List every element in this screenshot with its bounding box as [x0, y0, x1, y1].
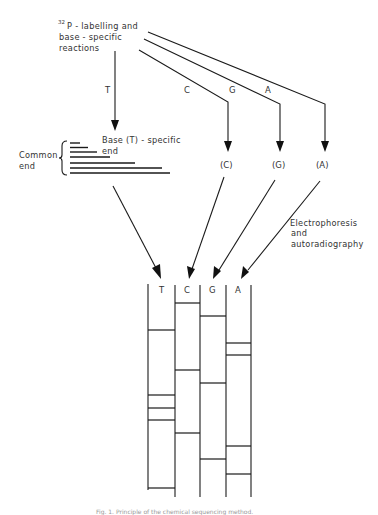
lane-a-bands [226, 343, 251, 474]
common-end-label: Common end [19, 141, 67, 175]
lane-label-t: T [158, 285, 165, 295]
electrophoresis-label: Electrophoresis and autoradiography [290, 218, 364, 249]
branch-label-c: C [184, 85, 190, 95]
svg-text:Electrophoresis: Electrophoresis [290, 218, 357, 228]
lane-label-a: A [235, 285, 241, 295]
figure-caption: Fig. 1. Principle of the chemical sequen… [96, 508, 253, 515]
svg-text:and: and [291, 228, 307, 238]
lane-c-bands [175, 303, 200, 433]
lane-t-bands [148, 330, 175, 488]
lane-label-c: C [184, 285, 190, 295]
dna-fragments [70, 143, 170, 173]
a-reaction-arrow: A [148, 32, 329, 152]
isotope-superscript: 32 [58, 19, 65, 25]
arrowhead-icon [321, 141, 329, 152]
svg-text:end: end [102, 146, 118, 156]
branch-label-t: T [104, 85, 111, 95]
base-specific-end-label: Base (T) - specific end [102, 135, 181, 156]
svg-text:end: end [19, 161, 35, 171]
arrowhead-icon [241, 266, 249, 279]
electrophoresis-arrows [113, 177, 320, 279]
label-line3: reactions [59, 43, 99, 53]
label-line2: base - specific [59, 32, 122, 42]
sequencing-diagram: 32 P - labelling and base - specific rea… [0, 0, 378, 515]
product-label-g: (G) [272, 160, 285, 170]
arrowhead-icon [224, 141, 232, 152]
sequencing-gel: T C G A [148, 284, 251, 497]
arrowhead-icon [152, 264, 161, 279]
svg-text:Common: Common [19, 150, 58, 160]
label-line1: P - labelling and [67, 21, 138, 31]
product-label-c: (C) [220, 160, 233, 170]
branch-label-a: A [265, 85, 271, 95]
arrowhead-icon [276, 141, 284, 152]
brace-icon [59, 141, 67, 175]
arrowhead-icon [111, 120, 119, 131]
lane-label-g: G [209, 285, 216, 295]
product-label-a: (A) [316, 160, 328, 170]
arrowhead-icon [187, 266, 195, 279]
lane-g-bands [200, 316, 226, 459]
labelling-reactions-label: 32 P - labelling and base - specific rea… [58, 19, 138, 53]
t-reaction-arrow: T [104, 51, 119, 131]
svg-text:autoradiography: autoradiography [291, 239, 364, 249]
branch-label-g: G [229, 85, 236, 95]
svg-text:Base (T) - specific: Base (T) - specific [102, 135, 181, 145]
